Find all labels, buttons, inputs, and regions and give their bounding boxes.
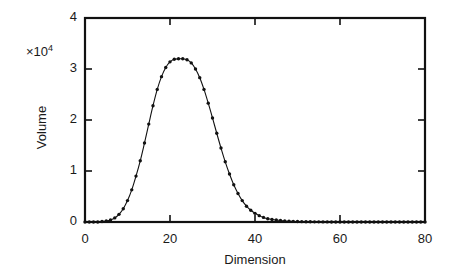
data-point-marker — [411, 220, 414, 223]
data-point-marker — [113, 216, 116, 219]
data-point-marker — [360, 220, 363, 223]
data-point-marker — [313, 220, 316, 223]
data-point-marker — [275, 218, 278, 221]
data-point-marker — [355, 220, 358, 223]
data-point-marker — [156, 88, 159, 91]
data-point-marker — [88, 220, 91, 223]
y-axis-tick-label: 2 — [37, 111, 77, 126]
data-point-marker — [287, 219, 290, 222]
data-point-marker — [117, 213, 120, 216]
data-point-marker — [219, 146, 222, 149]
data-point-marker — [377, 220, 380, 223]
data-point-marker — [147, 122, 150, 125]
x-axis-tick-label: 40 — [235, 231, 275, 246]
data-point-marker — [394, 220, 397, 223]
data-point-marker — [185, 58, 188, 61]
data-point-marker — [241, 199, 244, 202]
data-point-marker — [96, 220, 99, 223]
data-point-marker — [368, 220, 371, 223]
data-point-marker — [270, 218, 273, 221]
data-point-marker — [151, 104, 154, 107]
data-point-marker — [198, 76, 201, 79]
data-point-marker — [347, 220, 350, 223]
y-axis-tick-label: 4 — [37, 9, 77, 24]
data-point-marker — [364, 220, 367, 223]
data-point-marker — [211, 116, 214, 119]
data-point-marker — [139, 159, 142, 162]
data-point-marker — [130, 188, 133, 191]
data-point-marker — [92, 220, 95, 223]
tick-marks-group — [85, 18, 425, 222]
data-point-marker — [398, 220, 401, 223]
data-point-marker — [228, 172, 231, 175]
data-point-marker — [317, 220, 320, 223]
data-point-marker — [236, 192, 239, 195]
data-point-marker — [304, 220, 307, 223]
data-point-marker — [338, 220, 341, 223]
data-point-marker — [262, 216, 265, 219]
data-point-marker — [134, 174, 137, 177]
data-point-marker — [122, 207, 125, 210]
data-point-marker — [177, 57, 180, 60]
data-point-marker — [389, 220, 392, 223]
data-point-marker — [385, 220, 388, 223]
data-point-marker — [334, 220, 337, 223]
data-point-marker — [207, 101, 210, 104]
data-point-marker — [415, 220, 418, 223]
data-point-marker — [202, 88, 205, 91]
data-point-marker — [292, 220, 295, 223]
data-point-marker — [249, 209, 252, 212]
data-point-marker — [168, 60, 171, 63]
chart-figure: ×104 Volume Dimension 01234 020406080 — [0, 0, 457, 274]
data-point-marker — [105, 219, 108, 222]
data-point-marker — [326, 220, 329, 223]
data-point-marker — [215, 132, 218, 135]
data-point-marker — [245, 204, 248, 207]
data-point-marker — [224, 160, 227, 163]
data-point-marker — [173, 58, 176, 61]
y-axis-tick-label: 3 — [37, 60, 77, 75]
data-series-markers — [83, 57, 426, 224]
data-point-marker — [419, 220, 422, 223]
data-point-marker — [100, 220, 103, 223]
data-point-marker — [406, 220, 409, 223]
data-point-marker — [253, 212, 256, 215]
data-point-marker — [160, 75, 163, 78]
data-series-line — [85, 59, 425, 222]
data-point-marker — [164, 66, 167, 69]
x-axis-tick-label: 80 — [405, 231, 445, 246]
data-point-marker — [423, 220, 426, 223]
data-point-marker — [343, 220, 346, 223]
data-point-marker — [109, 218, 112, 221]
data-point-marker — [266, 217, 269, 220]
data-point-marker — [372, 220, 375, 223]
axes-frame — [85, 18, 425, 222]
data-point-marker — [232, 183, 235, 186]
x-axis-tick-label: 60 — [320, 231, 360, 246]
data-point-marker — [258, 214, 261, 217]
data-point-marker — [381, 220, 384, 223]
data-point-marker — [143, 141, 146, 144]
data-point-marker — [181, 57, 184, 60]
data-point-marker — [309, 220, 312, 223]
data-point-marker — [351, 220, 354, 223]
x-axis-tick-label: 20 — [150, 231, 190, 246]
data-point-marker — [321, 220, 324, 223]
data-point-marker — [279, 219, 282, 222]
data-point-marker — [296, 220, 299, 223]
y-axis-tick-label: 1 — [37, 162, 77, 177]
data-point-marker — [190, 61, 193, 64]
data-point-marker — [330, 220, 333, 223]
data-point-marker — [194, 67, 197, 70]
y-axis-tick-label: 0 — [37, 213, 77, 228]
data-point-marker — [83, 220, 86, 223]
data-point-marker — [402, 220, 405, 223]
data-point-marker — [300, 220, 303, 223]
data-point-marker — [283, 219, 286, 222]
x-axis-tick-label: 0 — [65, 231, 105, 246]
data-point-marker — [126, 199, 129, 202]
